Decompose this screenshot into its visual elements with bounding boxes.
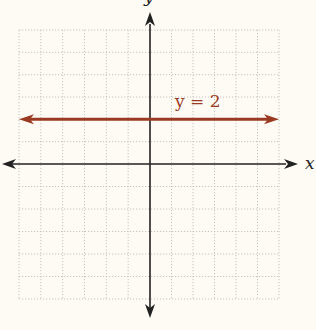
x-axis-label: x (305, 153, 315, 173)
coordinate-plane: x y y = 2 (0, 0, 316, 330)
y-axis-label: y (143, 0, 154, 6)
x-axis-right-arrow-icon (284, 159, 298, 169)
y-axis-top-arrow-icon (145, 12, 155, 26)
line-equation-label: y = 2 (174, 91, 220, 111)
x-axis: x (2, 153, 315, 173)
y-axis: y (143, 0, 155, 318)
line-y-equals-2: y = 2 (19, 91, 279, 124)
